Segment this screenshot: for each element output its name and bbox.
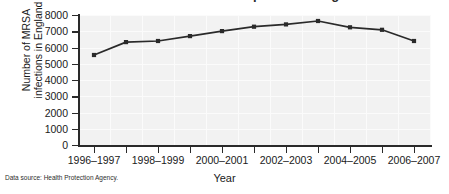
y-axis-tick bbox=[72, 129, 78, 130]
data-point-marker: 2004–2005: 7240 bbox=[348, 25, 352, 29]
y-axis-tick-label: 1000 bbox=[28, 124, 68, 135]
y-axis-tick-label: 3000 bbox=[28, 91, 68, 102]
y-axis-tick bbox=[72, 80, 78, 81]
x-axis-tick bbox=[158, 147, 159, 153]
chart-title-strip: Number of MRSA infections reported in En… bbox=[0, 0, 449, 7]
data-point-marker: 1996–1997: 5540 bbox=[92, 53, 96, 57]
y-axis-tick bbox=[72, 31, 78, 32]
data-series-mrsa: 1996–1997: 55401997–1998: 63301998–1999:… bbox=[78, 15, 430, 145]
y-axis-tick bbox=[72, 64, 78, 65]
chart-title: Number of MRSA infections reported in En… bbox=[60, 0, 367, 2]
y-axis-tick-label: 8000 bbox=[28, 10, 68, 21]
y-axis-tick-label: 2000 bbox=[28, 108, 68, 119]
data-point-marker: 1998–1999: 6400 bbox=[156, 39, 160, 43]
data-point-marker: 2006–2007: 6400 bbox=[412, 39, 416, 43]
gridline-vertical bbox=[430, 15, 431, 145]
y-axis-tick bbox=[72, 48, 78, 49]
x-axis-tick bbox=[190, 147, 191, 153]
plot-area: 1996–1997: 55401997–1998: 63301998–1999:… bbox=[78, 15, 430, 145]
x-axis-tick bbox=[222, 147, 223, 153]
y-axis-tick-label: 7000 bbox=[28, 26, 68, 37]
y-axis-tick-label: 5000 bbox=[28, 59, 68, 70]
x-axis-tick bbox=[382, 147, 383, 153]
x-axis-tick bbox=[94, 147, 95, 153]
y-axis-tick-label: 4000 bbox=[28, 75, 68, 86]
y-axis-tick bbox=[72, 113, 78, 114]
x-axis-tick bbox=[414, 147, 415, 153]
data-point-marker: 1997–1998: 6330 bbox=[124, 40, 128, 44]
y-axis-tick bbox=[72, 96, 78, 97]
x-axis-tick bbox=[350, 147, 351, 153]
data-point-marker: 2001–2002: 7280 bbox=[252, 25, 256, 29]
x-axis-tick bbox=[254, 147, 255, 153]
data-source-caption: Data source: Health Protection Agency. bbox=[5, 174, 118, 181]
chart-figure: Number of MRSA infections reported in En… bbox=[0, 0, 449, 194]
x-axis-tick bbox=[126, 147, 127, 153]
data-point-marker: 2003–2004: 7630 bbox=[316, 19, 320, 23]
data-point-marker: 2005–2006: 7090 bbox=[380, 28, 384, 32]
data-point-marker: 1999–2000: 6700 bbox=[188, 34, 192, 38]
data-point-marker: 2000–2001: 7010 bbox=[220, 29, 224, 33]
y-axis-tick bbox=[72, 145, 78, 146]
x-axis-tick bbox=[286, 147, 287, 153]
y-axis-line bbox=[78, 14, 80, 146]
y-axis-tick-label: 6000 bbox=[28, 43, 68, 54]
data-point-marker: 2002–2003: 7420 bbox=[284, 22, 288, 26]
x-axis-tick bbox=[318, 147, 319, 153]
y-axis-tick bbox=[72, 15, 78, 16]
y-axis-tick-label: 0 bbox=[28, 140, 68, 151]
x-axis-tick-label: 2006–2007 bbox=[374, 155, 449, 166]
